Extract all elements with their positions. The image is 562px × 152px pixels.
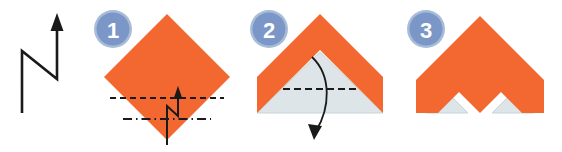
fold-down-arrowhead xyxy=(308,124,322,140)
pleat-arrowhead xyxy=(51,13,64,31)
step-badge-2: 2 xyxy=(250,10,288,48)
step-badge-label: 2 xyxy=(263,18,275,43)
step-badge-3: 3 xyxy=(407,10,445,48)
step-3-panel: 3 xyxy=(400,0,562,152)
step-badge-label: 1 xyxy=(107,18,119,43)
step-2-panel: 2 xyxy=(240,0,400,152)
origami-instruction-figure: 1 2 xyxy=(0,0,562,152)
legend-panel xyxy=(0,0,90,152)
pleat-fold-symbol-icon xyxy=(0,0,90,152)
step-badge-label: 3 xyxy=(420,18,432,43)
pleat-zigzag-stroke xyxy=(22,26,57,113)
step-1-panel: 1 xyxy=(90,0,240,152)
step-badge-1: 1 xyxy=(94,10,132,48)
